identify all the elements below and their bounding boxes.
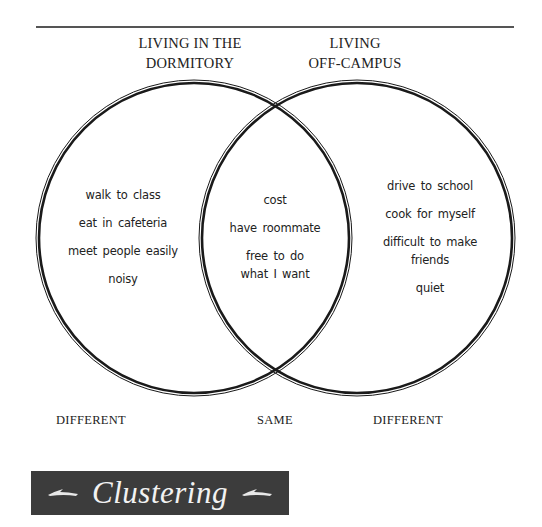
list-item: drive to school: [355, 177, 505, 195]
list-item: difficult to make: [355, 233, 505, 251]
list-item: noisy: [44, 270, 202, 288]
list-item: have roommate: [200, 219, 350, 237]
footer-right-label: DIFFERENT: [348, 413, 468, 428]
footer-middle-label: SAME: [215, 413, 335, 428]
flourish-right-icon: [240, 486, 274, 500]
banner-title: Clustering: [92, 475, 228, 511]
left-circle-items: walk to class eat in cafeteria meet peop…: [44, 186, 202, 288]
right-circle-items: drive to school cook for myself difficul…: [355, 177, 505, 297]
list-item: eat in cafeteria: [44, 214, 202, 232]
section-banner: Clustering: [31, 471, 289, 515]
list-item: quiet: [355, 279, 505, 297]
overlap-items: cost have roommate free to do what I wan…: [200, 191, 350, 283]
list-item: free to do: [200, 247, 350, 265]
flourish-left-icon: [46, 486, 80, 500]
list-item: friends: [355, 251, 505, 269]
list-item: cook for myself: [355, 205, 505, 223]
list-item: what I want: [200, 265, 350, 283]
list-item: walk to class: [44, 186, 202, 204]
list-item: meet people easily: [44, 242, 202, 260]
list-item: cost: [200, 191, 350, 209]
footer-left-label: DIFFERENT: [31, 413, 151, 428]
